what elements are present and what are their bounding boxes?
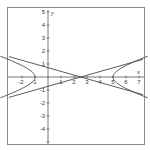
y-tick-label: -3 <box>40 113 46 119</box>
y-tick-label: -4 <box>40 126 46 132</box>
x-axis-label: x <box>136 68 140 75</box>
y-tick-label: -2 <box>40 100 46 106</box>
y-axis-label: y <box>50 9 54 16</box>
hyperbola-chart: -2 -1 1 2 3 4 5 6 7 5 4 3 2 1 -1 -2 -3 -… <box>0 0 150 150</box>
x-tick-label: -2 <box>18 79 24 85</box>
